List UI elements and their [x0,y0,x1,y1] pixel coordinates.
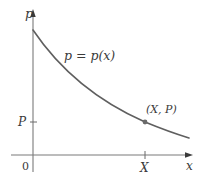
x-tick-label: X [139,161,149,175]
demand-curve-diagram: p x 0 p = p(x) (X, P) X P [0,0,201,189]
point-label: (X, P) [146,103,177,116]
x-axis-label: x [186,159,193,173]
y-axis-label: p [25,6,34,21]
x-axis-arrow-icon [185,152,193,157]
curve-label: p = p(x) [64,48,115,63]
y-tick-label: P [17,115,27,129]
origin-label: 0 [22,160,29,173]
demand-curve [33,30,189,138]
point-X-P [143,120,148,125]
